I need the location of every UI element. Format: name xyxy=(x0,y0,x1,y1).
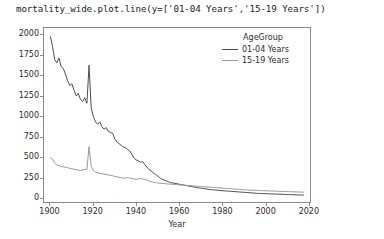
y-tick-label: 1750 xyxy=(7,51,39,59)
legend-line-swatch xyxy=(222,49,238,50)
x-axis-label: Year xyxy=(43,220,311,229)
y-tick-label: 2000 xyxy=(7,30,39,38)
legend-title: AgeGroup xyxy=(220,32,306,43)
series-line-2 xyxy=(50,147,303,193)
y-axis-tick-labels: 025050075010001250150017502000 xyxy=(5,27,39,203)
y-tick-label: 500 xyxy=(7,153,39,161)
x-tick-label: 1900 xyxy=(39,208,59,216)
y-tick-label: 750 xyxy=(7,133,39,141)
x-tick-label: 1960 xyxy=(169,208,189,216)
page-title: mortality_wide.plot.line(y=['01-04 Years… xyxy=(16,2,368,16)
legend: AgeGroup 01-04 Years15-19 Years xyxy=(218,31,308,68)
y-tick-label: 1250 xyxy=(7,92,39,100)
x-tick-label: 2020 xyxy=(299,208,319,216)
y-tick-label: 0 xyxy=(7,194,39,202)
legend-line-swatch xyxy=(222,60,238,61)
y-tick-label: 1500 xyxy=(7,71,39,79)
x-tick-label: 2000 xyxy=(255,208,275,216)
matplotlib-figure: mortality_wide.plot.line(y=['01-04 Years… xyxy=(0,0,384,239)
legend-label: 15-19 Years xyxy=(242,55,289,66)
x-tick-label: 1980 xyxy=(212,208,232,216)
legend-entry: 01-04 Years xyxy=(220,44,306,55)
x-axis-tick-labels: 1900192019401960198020002020 xyxy=(43,206,311,220)
legend-entries: 01-04 Years15-19 Years xyxy=(220,44,306,66)
y-tick-label: 250 xyxy=(7,174,39,182)
legend-entry: 15-19 Years xyxy=(220,55,306,66)
legend-label: 01-04 Years xyxy=(242,44,289,55)
y-tick-label: 1000 xyxy=(7,112,39,120)
x-tick-label: 1940 xyxy=(126,208,146,216)
x-tick-label: 1920 xyxy=(83,208,103,216)
